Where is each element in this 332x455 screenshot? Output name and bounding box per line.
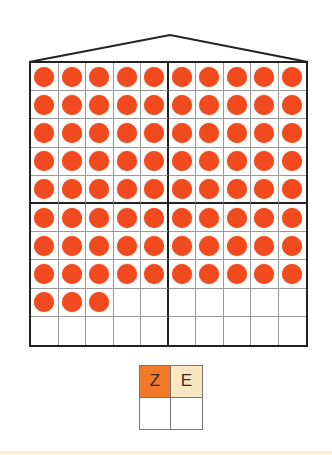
grid-cell: [279, 176, 307, 204]
grid-cell: [251, 317, 279, 345]
grid-cell: [279, 232, 307, 260]
grid-cell: [169, 317, 197, 345]
counter-dot: [199, 179, 219, 199]
grid-cell: [141, 260, 169, 288]
roof-outline: [0, 0, 332, 70]
grid-cell: [59, 204, 87, 232]
counter-dot: [117, 179, 137, 199]
counter-dot: [89, 123, 109, 143]
grid-cell: [169, 91, 197, 119]
grid-cell: [169, 63, 197, 91]
grid-cell: [279, 260, 307, 288]
counter-dot: [89, 67, 109, 87]
counter-dot: [254, 151, 274, 171]
grid-cell: [251, 63, 279, 91]
counter-dot: [254, 236, 274, 256]
counter-dot: [254, 95, 274, 115]
grid-cell: [114, 289, 142, 317]
place-value-table: Z E: [139, 365, 203, 430]
counter-dot: [62, 264, 82, 284]
counter-dot: [282, 67, 302, 87]
grid-cell: [86, 260, 114, 288]
counter-dot: [117, 123, 137, 143]
tens-value-cell[interactable]: [140, 398, 171, 430]
grid-cell: [86, 317, 114, 345]
counter-dot: [254, 123, 274, 143]
grid-cell: [279, 317, 307, 345]
counter-dot: [199, 264, 219, 284]
grid-cell: [196, 232, 224, 260]
counter-dot: [199, 208, 219, 228]
grid-cell: [169, 260, 197, 288]
grid-cell: [251, 91, 279, 119]
grid-cell: [196, 176, 224, 204]
counter-dot: [89, 95, 109, 115]
grid-cell: [141, 148, 169, 176]
grid-cell: [59, 289, 87, 317]
grid-cell: [86, 204, 114, 232]
counter-dot: [62, 179, 82, 199]
grid-cell: [251, 176, 279, 204]
grid-cell: [224, 289, 252, 317]
grid-cell: [141, 119, 169, 147]
counter-dot: [34, 123, 54, 143]
counter-dot: [254, 179, 274, 199]
counter-dot: [282, 95, 302, 115]
grid-cell: [224, 317, 252, 345]
counter-dot: [172, 151, 192, 171]
grid-cell: [114, 148, 142, 176]
counter-dot: [199, 67, 219, 87]
counter-dot: [34, 151, 54, 171]
grid-cell: [86, 232, 114, 260]
grid-cell: [59, 148, 87, 176]
grid-cell: [251, 232, 279, 260]
grid-cell: [279, 91, 307, 119]
grid-cell: [114, 119, 142, 147]
counter-dot: [117, 208, 137, 228]
counter-dot: [89, 264, 109, 284]
counter-dot: [89, 151, 109, 171]
grid-cell: [251, 260, 279, 288]
counter-dot: [117, 151, 137, 171]
grid-cell: [86, 63, 114, 91]
grid-cell: [251, 148, 279, 176]
grid-cell: [59, 317, 87, 345]
grid-cell: [196, 91, 224, 119]
grid-cell: [31, 63, 59, 91]
grid-cell: [59, 119, 87, 147]
grid-cell: [59, 63, 87, 91]
grid-cell: [59, 91, 87, 119]
counter-dot: [172, 95, 192, 115]
counter-dot: [227, 208, 247, 228]
grid-cell: [169, 232, 197, 260]
hundred-field-grid: [29, 61, 308, 347]
grid-cell: [31, 91, 59, 119]
grid-cell: [279, 289, 307, 317]
counter-dot: [172, 236, 192, 256]
ones-value-cell[interactable]: [171, 398, 202, 430]
counter-dot: [172, 123, 192, 143]
grid-cell: [196, 204, 224, 232]
grid-cell: [141, 91, 169, 119]
counter-dot: [144, 123, 164, 143]
counter-dot: [34, 292, 54, 312]
counter-dot: [227, 123, 247, 143]
grid-cell: [86, 119, 114, 147]
counter-dot: [144, 95, 164, 115]
counter-dot: [282, 151, 302, 171]
grid-cell: [31, 260, 59, 288]
grid-cell: [169, 204, 197, 232]
counter-dot: [144, 151, 164, 171]
counter-dot: [282, 264, 302, 284]
counter-dot: [62, 236, 82, 256]
grid-cell: [196, 63, 224, 91]
counter-dot: [62, 123, 82, 143]
grid-cell: [224, 232, 252, 260]
counter-dot: [117, 67, 137, 87]
grid-cell: [251, 119, 279, 147]
page-bottom-band: [0, 451, 332, 455]
counter-dot: [34, 95, 54, 115]
grid-cell: [224, 260, 252, 288]
counter-dot: [34, 179, 54, 199]
grid-cell: [31, 148, 59, 176]
